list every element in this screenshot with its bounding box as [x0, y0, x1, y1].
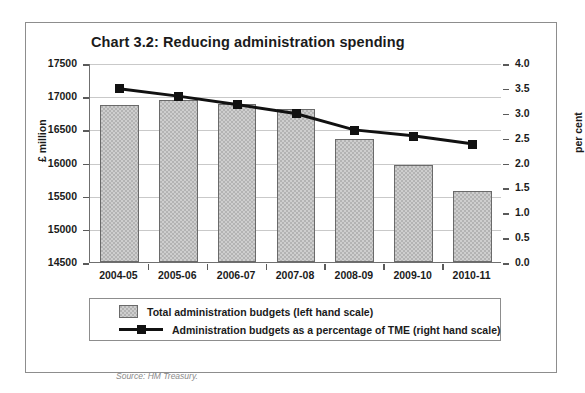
y-tick-label-left: 15000 — [48, 223, 77, 235]
y-tick-mark-right — [503, 238, 509, 240]
y-tick-label-left: 16500 — [48, 123, 77, 135]
line-marker — [174, 92, 183, 101]
line-marker — [233, 100, 242, 109]
x-tick-label: 2010-11 — [442, 269, 501, 281]
y-tick-label-left: 16000 — [48, 157, 77, 169]
y-tick-mark-right — [503, 89, 509, 91]
y-tick-label-right: 0.0 — [515, 256, 530, 268]
y-tick-label-right: 4.0 — [515, 57, 530, 69]
y-tick-label-left: 14500 — [48, 256, 77, 268]
x-tick-label: 2007-08 — [266, 269, 325, 281]
y-tick-mark-right — [503, 114, 509, 116]
x-tick-label: 2006-07 — [207, 269, 266, 281]
y-tick-mark-left — [83, 97, 89, 99]
y-tick-label-right: 3.5 — [515, 82, 530, 94]
y-tick-label-right: 2.0 — [515, 157, 530, 169]
legend-label-bars: Total administration budgets (left hand … — [147, 306, 373, 318]
line-series — [90, 64, 501, 262]
y-tick-mark-left — [83, 164, 89, 166]
y-tick-mark-right — [503, 188, 509, 190]
source-note: Source: HM Treasury. — [116, 371, 198, 381]
chart-frame: Chart 3.2: Reducing administration spend… — [25, 22, 557, 373]
y-tick-mark-left — [83, 197, 89, 199]
x-tick-label: 2004-05 — [89, 269, 148, 281]
y-tick-mark-left — [83, 64, 89, 66]
y-tick-label-right: 1.0 — [515, 206, 530, 218]
y-tick-mark-left — [83, 130, 89, 132]
plot-area — [89, 64, 501, 263]
line-marker — [115, 84, 124, 93]
y-tick-mark-right — [503, 164, 509, 166]
line-marker — [350, 126, 359, 135]
y-tick-label-right: 1.5 — [515, 181, 530, 193]
y-tick-label-right: 2.5 — [515, 132, 530, 144]
x-tick-label: 2005-06 — [148, 269, 207, 281]
legend-swatch-line — [119, 323, 163, 336]
y-tick-label-left: 17500 — [48, 57, 77, 69]
y-tick-mark-right — [503, 64, 509, 66]
y-tick-mark-left — [83, 263, 89, 265]
y-tick-label-left: 15500 — [48, 190, 77, 202]
y-tick-mark-right — [503, 263, 509, 265]
y-tick-mark-left — [83, 230, 89, 232]
y-tick-mark-right — [503, 213, 509, 215]
legend-line-marker — [137, 325, 146, 334]
chart-title: Chart 3.2: Reducing administration spend… — [91, 34, 405, 50]
x-tick-label: 2008-09 — [324, 269, 383, 281]
y-tick-mark-right — [503, 139, 509, 141]
y-tick-label-right: 3.0 — [515, 107, 530, 119]
y-axis-label-right: per cent — [572, 112, 584, 153]
y-tick-label-right: 0.5 — [515, 231, 530, 243]
line-marker — [409, 132, 418, 141]
x-tick-label: 2009-10 — [383, 269, 442, 281]
legend-swatch-bars — [119, 305, 138, 318]
line-marker — [468, 140, 477, 149]
line-marker — [292, 109, 301, 118]
y-tick-label-left: 17000 — [48, 90, 77, 102]
legend-item-line: Administration budgets as a percentage o… — [90, 319, 500, 340]
chart-legend: Total administration budgets (left hand … — [89, 298, 501, 341]
legend-label-line: Administration budgets as a percentage o… — [172, 324, 500, 336]
y-axis-label-left: £ million — [36, 119, 48, 162]
